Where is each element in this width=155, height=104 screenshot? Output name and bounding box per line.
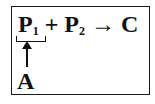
reaction-arrow-icon: → xyxy=(91,11,115,37)
product-c: C xyxy=(121,11,138,37)
reactant-p1: P1 xyxy=(18,11,39,37)
reactant-p2: P2 xyxy=(64,11,85,37)
arrow-shaft xyxy=(26,45,28,67)
plus-sign: + xyxy=(45,11,59,37)
label-a: A xyxy=(17,68,34,94)
